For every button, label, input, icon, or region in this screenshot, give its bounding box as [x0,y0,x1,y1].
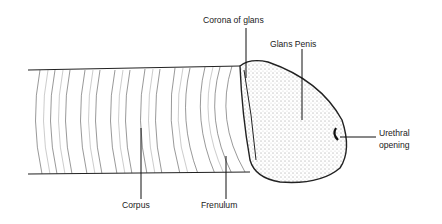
label-corpus: Corpus [122,200,150,210]
glans-penis [240,61,347,183]
label-corona-of-glans: Corona of glans [203,15,264,25]
label-urethral-opening-line1: Urethral [379,128,410,138]
anatomy-diagram: Corona of glans Glans Penis Urethral ope… [0,0,442,224]
label-glans-penis: Glans Penis [270,39,316,49]
label-urethral-opening-line2: opening [379,140,410,150]
anatomy-illustration [0,0,442,224]
label-frenulum: Frenulum [201,200,237,210]
corpus-shaft [28,66,250,174]
